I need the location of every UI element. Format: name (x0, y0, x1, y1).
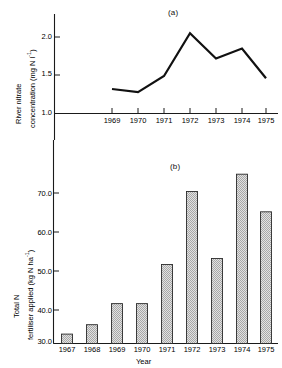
bar-1975 (261, 212, 272, 344)
panel-b-xtick-1973: 1973 (204, 345, 230, 354)
panel-a-ytick-1.5: 1.5 (30, 69, 52, 78)
panel-a-xtick-1971: 1971 (152, 116, 176, 125)
bar-1970 (137, 304, 148, 344)
panel-b-ylabel-line1: Total N (12, 295, 21, 318)
panel-a-data-line (112, 33, 266, 92)
panel-b-ytick-50.0: 50.0 (22, 267, 52, 276)
panel-b-plot (0, 140, 282, 368)
figure-container: (a) River nitrate concentration (mg N l-… (0, 0, 282, 368)
panel-a-ytick-2.0: 2.0 (30, 32, 52, 41)
panel-a-ylabel-line2: concentration (mg N l (28, 57, 37, 128)
panel-a-line-chart: (a) River nitrate concentration (mg N l-… (0, 0, 282, 140)
bar-1974 (237, 174, 248, 343)
panel-a-ylabel: River nitrate (14, 9, 23, 124)
panel-b-bar-chart: (b) Total N fertiliser applied (kg N ha-… (0, 140, 282, 368)
panel-b-ylabel: Total N (12, 158, 21, 318)
panel-b-xtick-1969: 1969 (104, 345, 130, 354)
bar-1971 (162, 264, 173, 343)
panel-b-ytick-70.0: 70.0 (22, 189, 52, 198)
panel-a-label: (a) (168, 8, 178, 17)
panel-a-xtick-1969: 1969 (100, 116, 124, 125)
panel-a-ylabel-exponent: -1 (26, 52, 32, 57)
panel-b-bars (62, 174, 272, 343)
panel-b-xtick-1968: 1968 (79, 345, 105, 354)
panel-a-xtick-1974: 1974 (230, 116, 254, 125)
bar-1969 (112, 304, 123, 344)
bar-1967 (62, 334, 73, 343)
bar-1972 (187, 191, 198, 343)
panel-b-xtick-1975: 1975 (253, 345, 279, 354)
panel-b-xtick-1972: 1972 (179, 345, 205, 354)
panel-a-ylabel-line1: River nitrate (14, 84, 23, 124)
panel-a-ylabel-paren: ) (28, 49, 37, 52)
panel-b-xlabel: Year (136, 357, 151, 366)
panel-b-xtick-1971: 1971 (154, 345, 180, 354)
panel-b-ytick-30.0: 30.0 (22, 337, 52, 346)
panel-b-ylabel-exponent: -1 (24, 252, 30, 257)
panel-a-xtick-1972: 1972 (178, 116, 202, 125)
panel-b-label: (b) (170, 162, 180, 171)
panel-b-xtick-1970: 1970 (129, 345, 155, 354)
panel-b-ytick-60.0: 60.0 (22, 228, 52, 237)
panel-b-xtick-1974: 1974 (229, 345, 255, 354)
panel-a-xtick-1970: 1970 (126, 116, 150, 125)
panel-b-ylabel-paren: ) (26, 250, 35, 253)
panel-a-xtick-1975: 1975 (254, 116, 278, 125)
panel-a-xtick-1973: 1973 (204, 116, 228, 125)
panel-b-ytick-40.0: 40.0 (22, 306, 52, 315)
bar-1973 (212, 258, 223, 343)
bar-1968 (87, 325, 98, 344)
panel-b-xtick-1967: 1967 (54, 345, 80, 354)
panel-a-ytick-1.0: 1.0 (30, 108, 52, 117)
